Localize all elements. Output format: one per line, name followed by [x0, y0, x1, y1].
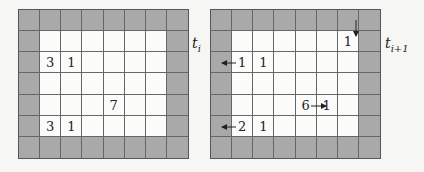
floor-cell: 1 [253, 52, 274, 73]
label-sub: i [198, 43, 201, 54]
wall-cell [359, 137, 380, 158]
wall-cell [359, 31, 380, 52]
floor-cell [296, 73, 317, 94]
cell-count: 1 [253, 118, 273, 133]
wall-cell [211, 95, 232, 116]
wall-cell [125, 137, 146, 158]
wall-cell [167, 52, 188, 73]
wall-cell [40, 10, 61, 31]
wall-cell [167, 73, 188, 94]
wall-cell [317, 10, 338, 31]
floor-cell [317, 31, 338, 52]
wall-cell [19, 73, 40, 94]
wall-cell [253, 10, 274, 31]
floor-cell [338, 73, 359, 94]
floor-cell [317, 52, 338, 73]
floor-cell [317, 116, 338, 137]
label-t-i-plus-1: ti+1 [385, 35, 409, 54]
wall-cell [61, 10, 82, 31]
wall-cell [82, 10, 103, 31]
wall-cell [19, 116, 40, 137]
wall-cell [359, 116, 380, 137]
floor-cell [82, 52, 103, 73]
wall-cell [19, 52, 40, 73]
floor-cell: 1 [61, 116, 82, 137]
wall-cell [167, 95, 188, 116]
floor-cell: 1 [338, 31, 359, 52]
floor-cell [104, 116, 125, 137]
floor-cell [253, 73, 274, 94]
floor-cell [146, 31, 167, 52]
floor-cell [40, 73, 61, 94]
floor-cell [232, 31, 253, 52]
wall-cell [146, 10, 167, 31]
floor-cell [146, 52, 167, 73]
wall-cell [317, 137, 338, 158]
label-t-i: ti [192, 35, 201, 54]
wall-cell [296, 10, 317, 31]
floor-cell [274, 73, 295, 94]
wall-cell [104, 10, 125, 31]
cell-count: 3 [40, 118, 60, 133]
cell-count: 1 [338, 34, 358, 49]
wall-cell [125, 10, 146, 31]
floor-cell [338, 52, 359, 73]
cell-count: 3 [40, 55, 60, 70]
floor-cell [274, 116, 295, 137]
wall-cell [359, 95, 380, 116]
floor-cell [338, 95, 359, 116]
floor-cell [232, 95, 253, 116]
cell-count: 1 [232, 55, 252, 70]
cell-count: 1 [61, 118, 81, 133]
wall-cell [146, 137, 167, 158]
cell-count: 1 [317, 97, 337, 112]
wall-cell [359, 73, 380, 94]
floor-cell [82, 73, 103, 94]
wall-cell [211, 116, 232, 137]
wall-cell [274, 10, 295, 31]
wall-cell [104, 137, 125, 158]
wall-cell [296, 137, 317, 158]
floor-cell [61, 73, 82, 94]
grid-time-t-i-plus-1: 1116121 [210, 9, 381, 159]
wall-cell [211, 31, 232, 52]
floor-cell [274, 95, 295, 116]
floor-cell [146, 116, 167, 137]
wall-cell [211, 52, 232, 73]
floor-cell [61, 31, 82, 52]
wall-cell [167, 10, 188, 31]
grid-time-t-i: 31731 [18, 9, 189, 159]
wall-cell [211, 10, 232, 31]
wall-cell [19, 31, 40, 52]
wall-cell [19, 95, 40, 116]
floor-cell: 3 [40, 116, 61, 137]
wall-cell [359, 52, 380, 73]
floor-cell [61, 95, 82, 116]
floor-cell [338, 116, 359, 137]
wall-cell [167, 137, 188, 158]
wall-cell [61, 137, 82, 158]
wall-cell [82, 137, 103, 158]
floor-cell [146, 73, 167, 94]
floor-cell [40, 31, 61, 52]
floor-cell: 1 [61, 52, 82, 73]
wall-cell [338, 10, 359, 31]
floor-cell [125, 31, 146, 52]
wall-cell [253, 137, 274, 158]
floor-cell [82, 31, 103, 52]
floor-cell [146, 95, 167, 116]
floor-cell [274, 52, 295, 73]
floor-cell: 6 [296, 95, 317, 116]
wall-cell [40, 137, 61, 158]
floor-cell [232, 73, 253, 94]
floor-cell [317, 73, 338, 94]
floor-cell [82, 116, 103, 137]
floor-cell [104, 73, 125, 94]
floor-cell [82, 95, 103, 116]
cell-count: 1 [61, 55, 81, 70]
floor-cell: 3 [40, 52, 61, 73]
floor-cell [253, 95, 274, 116]
cell-count: 7 [104, 97, 124, 112]
floor-cell [125, 116, 146, 137]
floor-cell [40, 95, 61, 116]
